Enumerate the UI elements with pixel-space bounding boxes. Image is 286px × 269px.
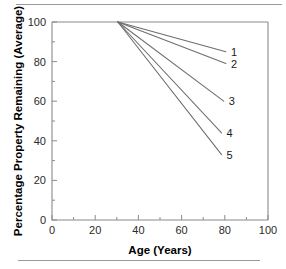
series-line-4 — [118, 22, 222, 133]
series-lines — [118, 22, 226, 155]
series-label-5: 5 — [227, 149, 233, 161]
series-label-1: 1 — [231, 46, 237, 58]
y-tick-label: 40 — [34, 135, 46, 147]
line-chart: 020406080100 020406080100 12345 Age (Yea… — [0, 0, 286, 269]
series-label-2: 2 — [231, 58, 237, 70]
series-label-3: 3 — [229, 95, 235, 107]
x-tick-label: 40 — [132, 224, 144, 236]
series-line-1 — [118, 22, 226, 52]
y-tick-label: 80 — [34, 56, 46, 68]
x-tick-label: 20 — [89, 224, 101, 236]
y-tick-labels: 020406080100 — [28, 16, 46, 226]
x-tick-label: 80 — [219, 224, 231, 236]
y-tick-label: 20 — [34, 174, 46, 186]
series-label-4: 4 — [227, 127, 233, 139]
y-axis-title: Percentage Property Remaining (Average) — [12, 6, 24, 236]
x-axis-title: Age (Years) — [128, 244, 191, 256]
y-tick-label: 100 — [28, 16, 46, 28]
y-tick-label: 0 — [40, 214, 46, 226]
x-tick-label: 0 — [49, 224, 55, 236]
x-tick-label: 100 — [259, 224, 277, 236]
series-end-labels: 12345 — [227, 46, 237, 161]
x-tick-labels: 020406080100 — [49, 224, 277, 236]
figure-page: 020406080100 020406080100 12345 Age (Yea… — [0, 0, 286, 269]
y-tick-label: 60 — [34, 95, 46, 107]
x-tick-label: 60 — [175, 224, 187, 236]
